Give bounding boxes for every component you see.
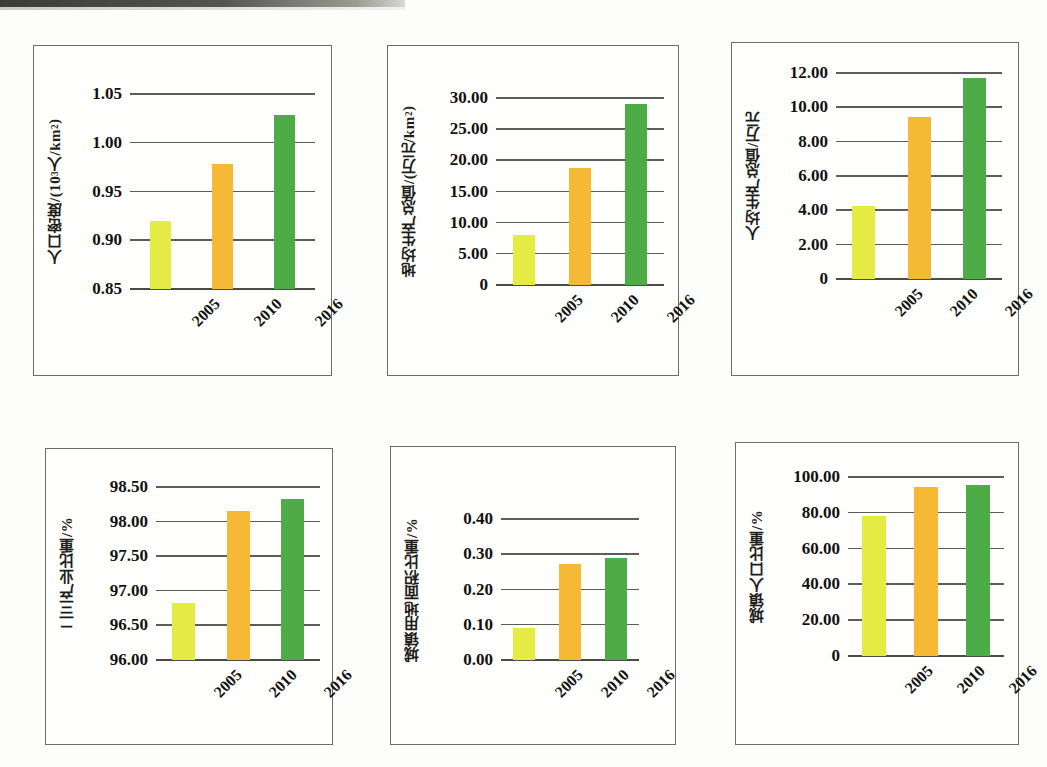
y-tick-label: 0.90 (92, 230, 122, 250)
y-tick-label: 0.10 (463, 615, 493, 635)
bar-series (848, 477, 1004, 656)
bar-2005 (862, 516, 886, 657)
y-tick-label: 8.00 (798, 132, 828, 152)
bar-series (836, 73, 1002, 279)
y-axis-ticks: 020.0040.0060.0080.00100.00 (736, 477, 840, 656)
y-tick-label: 97.00 (110, 581, 148, 601)
bar-2016 (605, 558, 627, 660)
plot-area (130, 94, 315, 289)
y-tick-label: 80.00 (802, 503, 840, 523)
y-axis-ticks: 02.004.006.008.0010.0012.00 (732, 73, 828, 279)
y-tick-label: 100.00 (793, 467, 840, 487)
plot-area (848, 477, 1004, 656)
x-tick-label: 2010 (265, 666, 300, 701)
y-tick-label: 98.50 (110, 477, 148, 497)
x-axis-labels: 200520102016 (501, 666, 639, 750)
bar-series (156, 487, 320, 660)
x-tick-label: 2010 (607, 291, 642, 326)
bar-2010 (569, 168, 591, 285)
bar-chart-urban-land-area-share: 城镇用地面积比重/%0.000.100.200.300.402005201020… (391, 447, 675, 744)
plot-area (496, 98, 664, 285)
y-tick-label: 0 (832, 646, 841, 666)
bar-2005 (150, 221, 171, 289)
bar-chart-urban-population-share: 城镇人口比重/%020.0040.0060.0080.00100.0020052… (736, 443, 1018, 744)
bar-2010 (914, 487, 938, 656)
x-tick-label: 2005 (551, 291, 586, 326)
x-tick-label: 2005 (211, 666, 246, 701)
x-tick-label: 2010 (953, 662, 988, 697)
bar-2010 (212, 164, 233, 289)
x-tick-label: 2016 (1005, 662, 1040, 697)
chart-panel-gdp-per-land-area: 地均生产总值/(万元/km2)05.0010.0015.0020.0025.00… (387, 45, 679, 376)
y-tick-label: 0.20 (463, 580, 493, 600)
x-tick-label: 2005 (901, 662, 936, 697)
bar-2010 (559, 564, 581, 660)
plot-area (836, 73, 1002, 279)
y-tick-label: 12.00 (790, 63, 828, 83)
y-tick-label: 1.00 (92, 133, 122, 153)
x-tick-label: 2010 (946, 285, 981, 320)
y-tick-label: 5.00 (458, 244, 488, 264)
y-tick-label: 2.00 (798, 235, 828, 255)
x-axis-labels: 200520102016 (156, 666, 320, 750)
bar-2010 (908, 117, 931, 279)
bar-2005 (513, 235, 535, 285)
bar-2016 (966, 485, 990, 656)
y-tick-label: 96.50 (110, 615, 148, 635)
bar-2005 (513, 628, 535, 660)
x-tick-label: 2016 (320, 666, 355, 701)
y-tick-label: 97.50 (110, 546, 148, 566)
y-tick-label: 0.95 (92, 182, 122, 202)
chart-panel-population-density: 人口密度/(103人/km2)0.850.900.951.001.0520052… (33, 45, 332, 376)
y-tick-label: 1.05 (92, 84, 122, 104)
chart-panel-urban-population-share: 城镇人口比重/%020.0040.0060.0080.00100.0020052… (735, 442, 1019, 745)
y-tick-label: 0.40 (463, 509, 493, 529)
x-tick-label: 2016 (643, 666, 678, 701)
y-tick-label: 40.00 (802, 574, 840, 594)
y-tick-label: 0 (480, 275, 489, 295)
x-tick-label: 2010 (250, 295, 285, 330)
y-tick-label: 60.00 (802, 539, 840, 559)
bar-2005 (172, 603, 195, 660)
x-axis-labels: 200520102016 (848, 662, 1004, 750)
y-tick-label: 10.00 (790, 97, 828, 117)
x-axis-labels: 200520102016 (130, 295, 315, 381)
bar-2016 (274, 115, 295, 289)
y-tick-label: 6.00 (798, 166, 828, 186)
x-tick-label: 2016 (663, 291, 698, 326)
bar-chart-gdp-per-capita: 人均生产总值/万元02.004.006.008.0010.0012.002005… (732, 43, 1018, 375)
bar-series (501, 519, 639, 660)
y-tick-label: 25.00 (450, 119, 488, 139)
bar-2016 (281, 499, 304, 660)
chart-panel-urban-land-area-share: 城镇用地面积比重/%0.000.100.200.300.402005201020… (390, 446, 676, 745)
y-axis-ticks: 05.0010.0015.0020.0025.0030.00 (388, 98, 488, 285)
bar-series (130, 94, 315, 289)
bar-chart-secondary-tertiary-industry-share: 二三产业比重/%96.0096.5097.0097.5098.0098.5020… (46, 449, 332, 744)
plot-area (156, 487, 320, 660)
y-tick-label: 0 (820, 269, 829, 289)
y-axis-ticks: 0.850.900.951.001.05 (34, 94, 122, 289)
bar-chart-gdp-per-land-area: 地均生产总值/(万元/km2)05.0010.0015.0020.0025.00… (388, 46, 678, 375)
y-tick-label: 20.00 (450, 150, 488, 170)
y-tick-label: 0.00 (463, 650, 493, 670)
y-tick-label: 15.00 (450, 182, 488, 202)
x-tick-label: 2005 (188, 295, 223, 330)
x-tick-label: 2005 (551, 666, 586, 701)
x-tick-label: 2010 (597, 666, 632, 701)
y-tick-label: 96.00 (110, 650, 148, 670)
bar-2010 (227, 511, 250, 660)
y-tick-label: 98.00 (110, 512, 148, 532)
bar-series (496, 98, 664, 285)
bar-2005 (852, 206, 875, 279)
y-tick-label: 0.85 (92, 279, 122, 299)
y-tick-label: 4.00 (798, 200, 828, 220)
chart-panel-gdp-per-capita: 人均生产总值/万元02.004.006.008.0010.0012.002005… (731, 42, 1019, 376)
x-tick-label: 2016 (312, 295, 347, 330)
plot-area (501, 519, 639, 660)
x-tick-label: 2016 (1002, 285, 1037, 320)
x-tick-label: 2005 (891, 285, 926, 320)
chart-grid: 人口密度/(103人/km2)0.850.900.951.001.0520052… (0, 0, 1047, 767)
y-tick-label: 30.00 (450, 88, 488, 108)
bar-2016 (625, 104, 647, 285)
x-axis-labels: 200520102016 (496, 291, 664, 381)
